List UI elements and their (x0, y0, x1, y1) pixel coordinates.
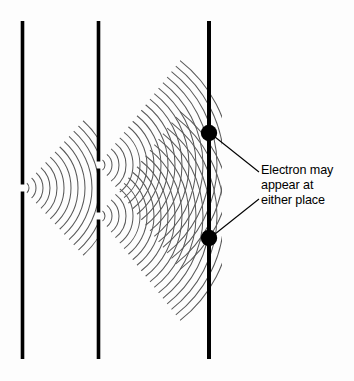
wave-arc (41, 168, 50, 209)
wave-field-group (27, 61, 231, 321)
annotation-line-1: Electron may (261, 163, 353, 178)
wave-arc (115, 194, 126, 237)
barriers-group (23, 21, 210, 359)
wave-arc (150, 150, 182, 282)
wave-arc (115, 143, 126, 186)
wave-arc (69, 136, 92, 239)
wave-arc (103, 211, 105, 221)
upper-electron-dot (201, 125, 217, 141)
wave-arc (107, 205, 112, 226)
annotation-line-3: either place (261, 193, 353, 208)
wave-arc (150, 99, 182, 231)
electron-annotation: Electron may appear at either place (261, 163, 353, 209)
leader-lines-group (215, 137, 259, 234)
wave-arc (46, 162, 57, 213)
lower-leader-line (215, 199, 259, 234)
wave-arc (137, 167, 161, 266)
wave-arc (137, 116, 161, 215)
wave-arc (60, 147, 78, 229)
wave-arc (32, 178, 36, 198)
lower-slit-wave-clip (103, 112, 232, 321)
wave-arc (27, 183, 29, 193)
wave-arc (36, 173, 43, 203)
lower-electron-dot (201, 230, 217, 246)
wave-arc (128, 178, 147, 254)
wave-arc (128, 127, 147, 203)
figure-canvas: Electron may appear at either place (0, 0, 354, 381)
wave-arc (107, 154, 112, 175)
annotation-line-2: appear at (261, 178, 353, 193)
lower-slit-wave (103, 112, 232, 321)
wave-arc (103, 160, 105, 170)
